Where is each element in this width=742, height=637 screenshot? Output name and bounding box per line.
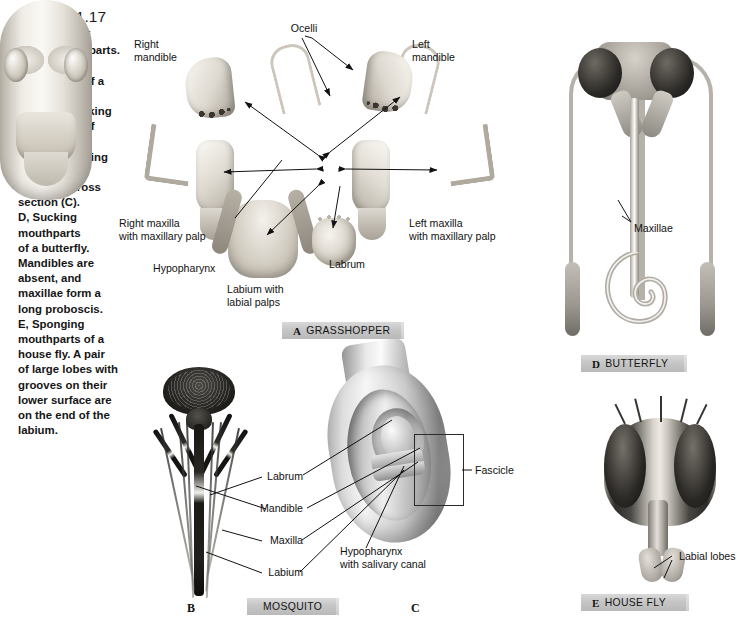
right-mandible-art: [183, 56, 236, 121]
label-right-maxilla: Right maxilla with maxillary palp: [119, 217, 206, 242]
housefly-eye-left: [674, 424, 716, 508]
banner-text: GRASSHOPPER: [306, 325, 390, 336]
label-labial-lobes: Labial lobes: [679, 550, 736, 563]
compound-eye-right: [4, 48, 28, 82]
label-labium: Labium with labial palps: [227, 283, 284, 308]
label-hypopharynx-salivary-canal: Hypopharynx with salivary canal: [340, 545, 426, 570]
banner-mosquito: MOSQUITO: [247, 598, 339, 615]
banner-housefly: E HOUSE FLY: [581, 594, 689, 611]
label-mosquito-labrum: Labrum: [233, 470, 303, 483]
label-mosquito-mandible: Mandible: [223, 502, 303, 515]
caption-line: mouthparts: [18, 226, 126, 241]
head-bristle: [696, 404, 707, 424]
head-bristle: [660, 396, 662, 422]
label-maxillae: Maxillae: [634, 222, 673, 235]
caption-line: house fly. A pair: [18, 347, 126, 362]
banner-butterfly: D BUTTERFLY: [581, 355, 687, 372]
labrum-in-place: [24, 152, 68, 186]
caption-line: grooves on their: [18, 378, 126, 393]
label-left-mandible: Left mandible: [412, 38, 455, 63]
label-hypopharynx: Hypopharynx: [153, 262, 215, 275]
mosquito-proboscis: [194, 424, 204, 596]
housefly-eye-right: [604, 424, 646, 508]
panel-letter-b: B: [187, 601, 195, 616]
label-mosquito-maxilla: Maxilla: [233, 534, 303, 547]
left-maxilla-art: [352, 140, 390, 214]
caption-line: of large lobes with: [18, 362, 126, 377]
banner-letter: E: [592, 597, 600, 609]
antenna-club-left: [700, 262, 715, 336]
caption-line: maxillae form a: [18, 286, 126, 301]
antenna-club-right: [565, 262, 580, 336]
grasshopper-head-capsule: [0, 0, 92, 200]
labium-art: [228, 200, 298, 278]
banner-text: BUTTERFLY: [605, 358, 668, 369]
label-mosquito-labium: Labium: [233, 566, 303, 579]
antenna-right: [266, 40, 321, 115]
caption-line: mouthparts of a: [18, 332, 126, 347]
caption-line: long proboscis.: [18, 302, 126, 317]
caption-line: on the end of the: [18, 408, 126, 423]
grasshopper-illustration: [0, 0, 92, 200]
figure-page: Figure 21.17 Four types of insect mouthp…: [0, 0, 742, 637]
label-labrum: Labrum: [329, 258, 365, 271]
compound-eye-left: [64, 48, 88, 82]
head-bristle: [614, 404, 625, 424]
label-ocelli: Ocelli: [276, 22, 332, 35]
head-bristle: [680, 399, 687, 423]
caption-line: E, Sponging: [18, 317, 126, 332]
caption-line: Mandibles are: [18, 256, 126, 271]
label-right-mandible: Right mandible: [134, 38, 177, 63]
banner-text: HOUSE FLY: [605, 597, 666, 608]
label-left-maxilla: Left maxilla with maxillary palp: [409, 217, 496, 242]
right-maxillary-palp: [144, 124, 196, 187]
caption-line: lower surface are: [18, 393, 126, 408]
caption-line: D, Sucking: [18, 210, 126, 225]
fascicle-bracket-box: [414, 434, 464, 506]
label-fascicle: Fascicle: [475, 464, 514, 477]
caption-line: labium.: [18, 423, 126, 438]
head-bristle: [634, 399, 641, 423]
banner-letter: A: [293, 325, 301, 337]
caption-line: of a butterfly.: [18, 241, 126, 256]
banner-letter: D: [592, 358, 600, 370]
proboscis-coil: [597, 252, 679, 334]
caption-line: absent, and: [18, 271, 126, 286]
banner-grasshopper: A GRASSHOPPER: [282, 322, 404, 339]
banner-text: MOSQUITO: [263, 601, 322, 612]
left-maxillary-palp: [443, 124, 495, 187]
panel-letter-c: C: [411, 601, 420, 616]
butterfly-eye-right: [578, 48, 622, 98]
